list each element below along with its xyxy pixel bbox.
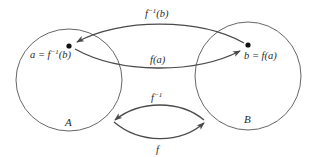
arrow-inverse-B-to-A (115, 105, 204, 120)
point-b-dot (245, 42, 250, 47)
arrow-f-A-to-B (114, 122, 204, 139)
set-b-label: B (244, 113, 251, 125)
point-a-dot (66, 43, 71, 48)
set-a-label: A (64, 116, 72, 128)
arrow-inverse-B-to-A-label: f−1 (151, 91, 162, 103)
point-a-label: a = f−1(b) (30, 48, 71, 61)
function-inverse-diagram: A B a = f−1(b) b = f(a) f−1(b) f(a) f−1 … (0, 0, 316, 157)
set-b: B (195, 22, 301, 130)
arrow-f-A-to-B-label: f (156, 144, 161, 155)
point-b-label: b = f(a) (244, 50, 277, 62)
arrow-f-a-to-b-label: f(a) (150, 54, 166, 66)
arrow-inverse-b-to-a-label: f−1(b) (145, 7, 169, 20)
